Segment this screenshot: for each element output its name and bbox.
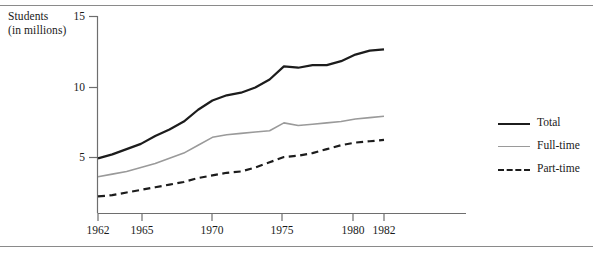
legend-label: Full-time [537, 139, 580, 151]
axes [89, 16, 466, 221]
legend-label: Part-time [537, 162, 580, 174]
y-tick-label-5: 5 [60, 151, 85, 163]
legend-label: Total [537, 116, 560, 128]
y-tick-label-10: 10 [60, 81, 85, 93]
x-tick-label-1980: 1980 [338, 224, 368, 236]
y-tick-marks [89, 17, 98, 158]
figure: Students (in millions) 51015196219651970… [0, 0, 593, 254]
x-tick-label-1965: 1965 [127, 224, 157, 236]
legend-swatch-icon [498, 123, 530, 125]
x-tick-label-1982: 1982 [369, 224, 399, 236]
x-tick-label-1975: 1975 [267, 224, 297, 236]
series-line-total [98, 49, 384, 158]
legend-swatch-icon [498, 146, 530, 147]
plot-area [0, 0, 593, 254]
data-series-group [98, 49, 384, 196]
x-tick-label-1970: 1970 [197, 224, 227, 236]
x-tick-label-1962: 1962 [83, 224, 113, 236]
legend-swatch-icon [498, 169, 530, 171]
series-line-full-time [98, 116, 384, 176]
y-tick-label-15: 15 [60, 10, 85, 22]
x-tick-marks [98, 214, 384, 222]
